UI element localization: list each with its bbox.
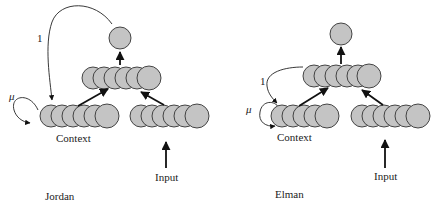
hidden-layer [82,66,161,90]
hidden-to-context-arc [267,67,303,103]
context-to-hidden-arrow [299,88,328,106]
context-layer [271,104,339,128]
context-label: Context [277,131,312,143]
input-to-hidden-arrow [141,92,164,105]
hidden-layer [303,64,381,88]
self-loop-label: μ [245,103,252,115]
context-label: Context [56,132,91,144]
recurrent-networks-diagram: 1 μ [0,0,438,207]
context-to-hidden-arrow [78,89,108,106]
output-node [109,27,131,49]
diagram-title: Jordan [45,190,75,202]
jordan-network: 1 μ [8,6,209,202]
input-label: Input [155,171,178,183]
input-label: Input [374,170,397,182]
self-loop-arc [13,98,38,123]
input-layer [351,104,430,128]
feedback-weight-label: 1 [260,75,266,87]
diagram-title: Elman [275,188,304,200]
input-layer [130,104,209,128]
context-layer [40,104,119,128]
elman-network: 1 μ Context Input Elman [245,23,430,200]
output-node [330,23,352,45]
feedback-weight-label: 1 [37,32,43,44]
input-to-hidden-arrow [362,90,383,105]
self-loop-label: μ [8,90,15,102]
